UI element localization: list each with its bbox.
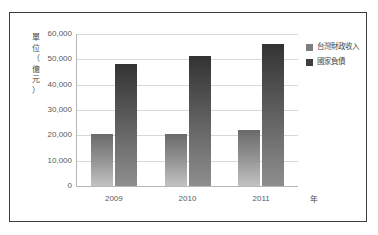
x-axis-tick-label: 2009 <box>105 195 123 203</box>
y-axis-title-char: 元 <box>30 75 42 86</box>
chart-legend: 台灣財政收入 國家負債 <box>306 42 368 72</box>
bar[interactable] <box>262 44 284 186</box>
bar-group: 2011 <box>238 34 284 186</box>
chart-frame: 單 位 （ 億 元 ） 010,00020,00030,00040,00050,… <box>9 12 367 222</box>
bar[interactable] <box>189 56 211 186</box>
y-axis-tick-label: 50,000 <box>48 55 72 63</box>
y-axis-title-char: ） <box>30 86 42 97</box>
y-axis-tick-label: 20,000 <box>48 131 72 139</box>
bar[interactable] <box>91 134 113 186</box>
x-axis-title: 年 <box>310 196 318 204</box>
y-axis-tick-label: 40,000 <box>48 81 72 89</box>
x-axis-tick-label: 2011 <box>253 195 270 203</box>
legend-swatch-icon <box>306 44 313 51</box>
legend-swatch-icon <box>306 59 313 66</box>
legend-item[interactable]: 國家負債 <box>306 57 368 67</box>
bar[interactable] <box>165 134 187 186</box>
y-axis-tick-label: 30,000 <box>48 106 72 114</box>
bar[interactable] <box>115 64 137 186</box>
bar[interactable] <box>238 130 260 186</box>
x-axis-tick-label: 2010 <box>179 195 197 203</box>
legend-item-label: 國家負債 <box>317 58 345 66</box>
y-axis-title: 單 位 （ 億 元 ） <box>30 33 42 96</box>
bar-group: 2009 <box>91 34 137 186</box>
y-axis-title-char: 單 <box>30 33 42 44</box>
bar-group: 2010 <box>165 34 211 186</box>
plot-area: 010,00020,00030,00040,00050,00060,000200… <box>76 34 298 187</box>
y-axis-tick-label: 10,000 <box>48 157 72 165</box>
y-axis-title-char: 億 <box>30 65 42 76</box>
legend-item[interactable]: 台灣財政收入 <box>306 42 368 52</box>
y-axis-title-char: 位 <box>30 44 42 55</box>
legend-item-label: 台灣財政收入 <box>317 43 359 51</box>
y-axis-tick-label: 60,000 <box>48 30 72 38</box>
y-axis-tick-label: 0 <box>68 182 72 190</box>
y-axis-title-char: （ <box>30 54 42 65</box>
